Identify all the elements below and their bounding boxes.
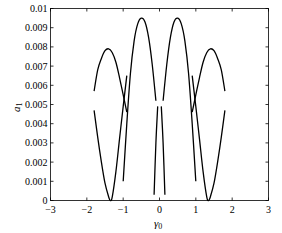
y-tick-label: 0.004 bbox=[25, 118, 48, 129]
x-axis-label: γ0 bbox=[154, 217, 162, 231]
y-tick-label: 0.006 bbox=[25, 80, 48, 91]
y-tick-label: 0.001 bbox=[25, 176, 48, 187]
plot-area bbox=[51, 9, 269, 201]
y-tick-label: 0.007 bbox=[25, 61, 48, 72]
x-tick-label: 0 bbox=[157, 204, 162, 215]
x-tick-label: 2 bbox=[230, 204, 235, 215]
y-tick-label: 0 bbox=[43, 195, 48, 206]
y-tick-label: 0.003 bbox=[25, 137, 48, 148]
y-tick-label: 0.01 bbox=[30, 3, 48, 14]
x-tick-label: −1 bbox=[118, 204, 129, 215]
x-tick-label: 3 bbox=[266, 204, 271, 215]
y-tick-label: 0.009 bbox=[25, 22, 48, 33]
x-tick-label: −2 bbox=[82, 204, 93, 215]
chart: −3−2−10123 00.0010.0020.0030.0040.0050.0… bbox=[0, 0, 282, 233]
y-tick-label: 0.002 bbox=[25, 157, 48, 168]
y-tick-label: 0.005 bbox=[25, 99, 48, 110]
x-tick-label: 1 bbox=[193, 204, 198, 215]
y-tick-label: 0.008 bbox=[25, 41, 48, 52]
y-axis-label: a1 bbox=[10, 103, 24, 113]
